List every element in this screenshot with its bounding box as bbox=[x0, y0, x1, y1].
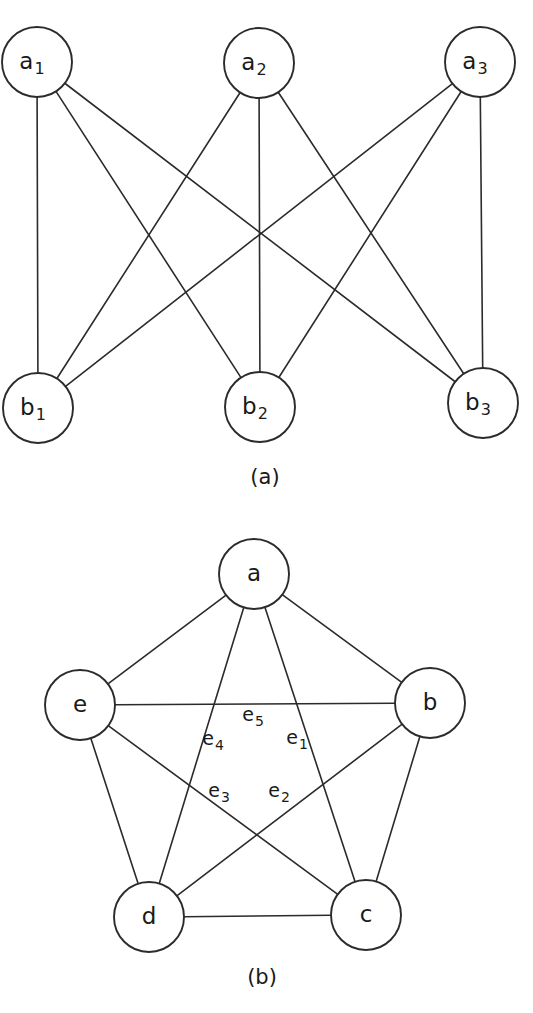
edge-label-subscript-e4: 4 bbox=[215, 737, 224, 753]
graph-figure-canvas: a1a2a3b1b2b3(a) abcdee1e2e3e4e5(b) bbox=[0, 0, 533, 1013]
edge-label-e4: e4 bbox=[202, 727, 224, 754]
panel-caption-panel-b: (b) bbox=[247, 965, 277, 989]
graph-edge-d-e bbox=[91, 738, 138, 883]
graph-node-e[interactable]: e bbox=[45, 670, 115, 740]
graph-node-b2[interactable]: b2 bbox=[225, 372, 295, 442]
figure-root: a1a2a3b1b2b3(a) abcdee1e2e3e4e5(b) bbox=[0, 0, 533, 1013]
graph-node-b1[interactable]: b1 bbox=[3, 373, 73, 443]
graph-edge-b-e bbox=[115, 703, 395, 705]
node-label-subscript-a3: 3 bbox=[477, 59, 487, 78]
node-label-c: c bbox=[360, 901, 373, 927]
edge-label-e2: e2 bbox=[268, 779, 290, 806]
graph-edge-a1-b1 bbox=[37, 97, 38, 373]
graph-node-b[interactable]: b bbox=[395, 668, 465, 738]
graph-node-a[interactable]: a bbox=[219, 539, 289, 609]
panel-b-complete-graph: abcdee1e2e3e4e5(b) bbox=[45, 539, 465, 989]
graph-node-d[interactable]: d bbox=[114, 882, 184, 952]
node-label-subscript-b2: 2 bbox=[258, 404, 268, 423]
graph-node-c[interactable]: c bbox=[331, 880, 401, 950]
edge-label-subscript-e2: 2 bbox=[281, 789, 290, 805]
graph-edge-b-c bbox=[376, 737, 420, 882]
edge-label-subscript-e1: 1 bbox=[299, 736, 308, 752]
edge-label-subscript-e5: 5 bbox=[255, 713, 264, 729]
node-label-subscript-b1: 1 bbox=[36, 405, 46, 424]
graph-node-a2[interactable]: a2 bbox=[224, 28, 294, 98]
graph-edge-b-d bbox=[177, 724, 402, 896]
graph-node-a1[interactable]: a1 bbox=[2, 27, 72, 97]
graph-edge-e-a bbox=[108, 595, 226, 684]
node-label-subscript-b3: 3 bbox=[481, 400, 491, 419]
graph-edge-a3-b3 bbox=[480, 97, 482, 368]
panel-caption-panel-a: (a) bbox=[250, 465, 279, 489]
graph-node-a3[interactable]: a3 bbox=[445, 27, 515, 97]
node-label-e: e bbox=[73, 691, 87, 717]
graph-edge-c-d bbox=[184, 915, 331, 916]
edge-label-e5: e5 bbox=[242, 703, 264, 730]
node-label-subscript-a1: 1 bbox=[34, 59, 44, 78]
edge-label-subscript-e3: 3 bbox=[221, 789, 230, 805]
graph-edge-a-b bbox=[282, 595, 402, 683]
graph-node-b3[interactable]: b3 bbox=[448, 368, 518, 438]
node-label-b: b bbox=[423, 689, 438, 715]
node-label-subscript-a2: 2 bbox=[256, 60, 266, 79]
panel-a-bipartite-graph: a1a2a3b1b2b3(a) bbox=[2, 27, 518, 489]
node-label-d: d bbox=[142, 903, 157, 929]
node-label-a: a bbox=[247, 560, 261, 586]
graph-edge-a-c bbox=[265, 607, 355, 882]
